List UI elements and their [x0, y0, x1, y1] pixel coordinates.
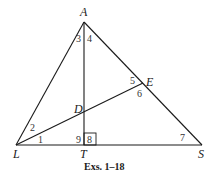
angle-label-2: 2 — [30, 122, 35, 133]
angle-label-7: 7 — [180, 132, 185, 143]
vertex-label-T: T — [80, 147, 88, 161]
angle-label-3: 3 — [76, 33, 81, 44]
angle-label-1: 1 — [38, 134, 43, 145]
angle-label-9: 9 — [76, 134, 81, 145]
angle-label-6: 6 — [137, 88, 142, 99]
vertex-label-D: D — [73, 102, 83, 116]
vertex-label-E: E — [145, 75, 154, 89]
figure-caption: Exs. 1–18 — [84, 161, 125, 172]
vertex-label-L: L — [12, 147, 20, 161]
angle-label-5: 5 — [130, 75, 135, 86]
segment-AL — [16, 22, 84, 145]
vertex-label-A: A — [79, 5, 88, 19]
vertex-label-S: S — [198, 147, 204, 161]
geometry-figure: A L T S E D 1 2 3 4 5 6 7 8 9 Exs. 1–18 — [0, 0, 215, 175]
angle-label-4: 4 — [87, 33, 92, 44]
angle-label-8: 8 — [87, 134, 92, 145]
